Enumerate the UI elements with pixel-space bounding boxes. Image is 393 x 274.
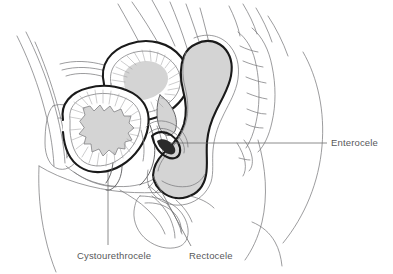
label-cystourethrocele: Cystourethrocele xyxy=(77,250,151,261)
sacrum xyxy=(229,4,288,176)
label-rectocele: Rectocele xyxy=(189,250,233,261)
leader-lines xyxy=(108,143,327,246)
pelvic-prolapse-diagram: Enterocele Cystourethrocele Rectocele xyxy=(0,0,393,274)
label-enterocele: Enterocele xyxy=(331,137,378,148)
bladder xyxy=(63,86,149,190)
